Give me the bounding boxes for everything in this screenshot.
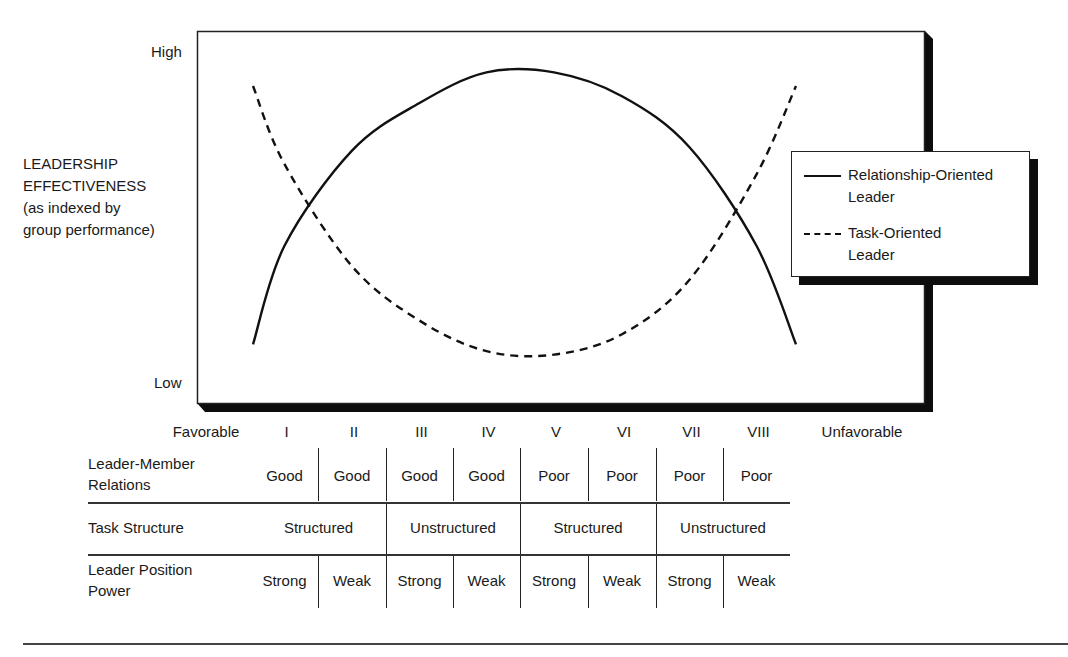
octant-label: VI	[617, 423, 631, 440]
x-axis-unfavorable-label: Unfavorable	[822, 423, 903, 440]
legend-item-task: Task-Oriented Leader	[848, 222, 941, 266]
legend-label: Task-Oriented	[848, 222, 941, 244]
table-cell: Strong	[397, 572, 441, 589]
table-column-divider	[520, 448, 521, 501]
legend-label: Relationship-Oriented	[848, 164, 993, 186]
table-column-divider	[386, 555, 387, 608]
octant-label: V	[551, 423, 561, 440]
table-cell: Strong	[262, 572, 306, 589]
table-row-label: Leader PositionPower	[88, 559, 192, 601]
table-cell: Unstructured	[410, 519, 496, 536]
table-row-label-line: Power	[88, 580, 192, 601]
table-column-divider	[656, 555, 657, 608]
octant-label: II	[350, 423, 358, 440]
table-cell: Good	[334, 467, 371, 484]
table-cell: Weak	[333, 572, 371, 589]
table-column-divider	[520, 555, 521, 608]
octant-label: IV	[481, 423, 495, 440]
table-row-label-line: Leader-Member	[88, 453, 195, 474]
table-cell: Weak	[603, 572, 641, 589]
legend-label: Leader	[848, 186, 993, 208]
octant-label: VIII	[747, 423, 770, 440]
table-column-divider	[656, 448, 657, 501]
table-column-divider	[588, 555, 589, 608]
table-row-label: Task Structure	[88, 517, 184, 538]
legend-label: Leader	[848, 244, 941, 266]
table-cell: Poor	[538, 467, 570, 484]
table-cell: Weak	[737, 572, 775, 589]
legend: Relationship-Oriented Leader Task-Orient…	[791, 151, 1030, 277]
table-cell: Structured	[284, 519, 353, 536]
table-cell: Poor	[741, 467, 773, 484]
table-cell: Unstructured	[680, 519, 766, 536]
table-column-divider	[588, 448, 589, 501]
table-row-label-line: Leader Position	[88, 559, 192, 580]
table-column-divider	[656, 503, 657, 554]
table-cell: Poor	[674, 467, 706, 484]
table-cell: Poor	[606, 467, 638, 484]
table-cell: Good	[266, 467, 303, 484]
table-column-divider	[723, 448, 724, 501]
solid-line-swatch-icon	[804, 175, 841, 177]
table-column-divider	[453, 555, 454, 608]
bottom-rule	[23, 643, 1068, 645]
table-cell: Good	[468, 467, 505, 484]
table-row-label-line: Relations	[88, 474, 195, 495]
table-row-label-line: Task Structure	[88, 517, 184, 538]
table-cell: Strong	[667, 572, 711, 589]
octant-label: I	[284, 423, 288, 440]
dashed-line-swatch-icon	[804, 233, 841, 235]
table-row-label: Leader-MemberRelations	[88, 453, 195, 495]
table-column-divider	[520, 503, 521, 554]
table-column-divider	[386, 448, 387, 501]
table-column-divider	[318, 555, 319, 608]
octant-label: III	[415, 423, 428, 440]
table-cell: Weak	[467, 572, 505, 589]
table-cell: Strong	[532, 572, 576, 589]
octant-label: VII	[682, 423, 700, 440]
table-column-divider	[723, 555, 724, 608]
table-cell: Good	[401, 467, 438, 484]
table-column-divider	[386, 503, 387, 554]
table-row-separator	[88, 502, 790, 504]
table-cell: Structured	[553, 519, 622, 536]
table-row-separator	[88, 554, 790, 556]
table-column-divider	[453, 448, 454, 501]
x-axis-favorable-label: Favorable	[173, 423, 240, 440]
table-column-divider	[318, 448, 319, 501]
legend-item-relationship: Relationship-Oriented Leader	[848, 164, 993, 208]
